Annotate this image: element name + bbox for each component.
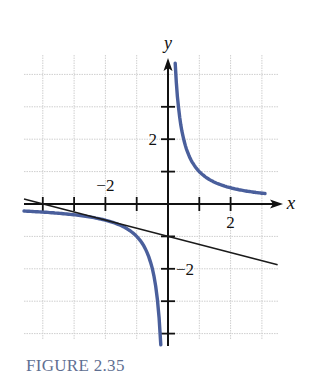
curve-right-branch — [175, 63, 265, 193]
x-tick-label: 2 — [226, 213, 235, 232]
y-axis-label: y — [162, 33, 172, 53]
tangent-line — [24, 199, 278, 265]
x-tick-label: −2 — [96, 176, 114, 195]
axes — [24, 58, 283, 346]
grid-lines — [24, 55, 279, 340]
axis-labels: yx−222−2 — [96, 33, 295, 279]
x-axis-label: x — [286, 192, 296, 213]
figure-plot: yx−222−2 — [0, 0, 317, 350]
y-tick-label: 2 — [149, 130, 158, 149]
y-tick-label: −2 — [176, 260, 194, 279]
curve-left-branch — [24, 211, 161, 345]
figure-caption: FIGURE 2.35 — [26, 356, 125, 376]
